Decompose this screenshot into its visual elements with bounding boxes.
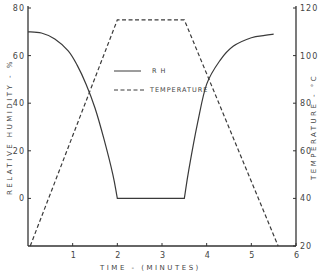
- right-y-tick-label: 100: [300, 52, 318, 61]
- left-y-tick-label: 40: [13, 99, 25, 108]
- left-y-tick-label: 20: [13, 147, 25, 156]
- left-y-tick-label: 0: [19, 194, 25, 203]
- right-y-tick-label: 120: [300, 4, 318, 13]
- ticks: [28, 8, 296, 246]
- left-y-tick-label: 80: [13, 4, 25, 13]
- right-y-tick-label: 20: [300, 242, 312, 251]
- x-tick-label: 4: [205, 251, 211, 260]
- axes: [28, 6, 296, 246]
- left-axis-title: RELATIVE HUMIDITY - %: [6, 59, 14, 195]
- x-tick-label: 3: [160, 251, 166, 260]
- x-axis-title: TIME - (MINUTES): [99, 264, 201, 272]
- chart: 12345680604020012010080604020 R H TEMPER…: [0, 0, 321, 275]
- x-tick-label: 5: [249, 251, 255, 260]
- temperature-series-line: [30, 20, 278, 246]
- rh-series-line: [28, 32, 274, 199]
- legend: R H TEMPERATURE: [114, 67, 208, 94]
- legend-temperature-label: TEMPERATURE: [149, 86, 208, 94]
- left-y-tick-label: 60: [13, 52, 25, 61]
- right-y-tick-label: 40: [300, 194, 312, 203]
- x-tick-label: 2: [115, 251, 121, 260]
- legend-rh-label: R H: [152, 67, 166, 75]
- series: [28, 20, 278, 246]
- x-tick-label: 6: [294, 251, 300, 260]
- x-tick-label: 1: [71, 251, 77, 260]
- right-axis-title: TEMPERATURE - °C: [310, 74, 318, 181]
